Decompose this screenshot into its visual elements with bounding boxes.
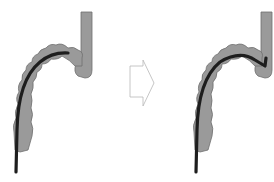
colon-arc-segment: [13, 44, 82, 152]
diagram-canvas: [0, 0, 274, 182]
colon-vertical-segment: [255, 12, 272, 78]
colon-vertical-segment: [75, 12, 92, 78]
after-panel: [193, 12, 272, 172]
before-panel: [13, 12, 92, 172]
colon-arc-segment: [193, 44, 262, 152]
right-arrow-icon: [130, 60, 154, 106]
